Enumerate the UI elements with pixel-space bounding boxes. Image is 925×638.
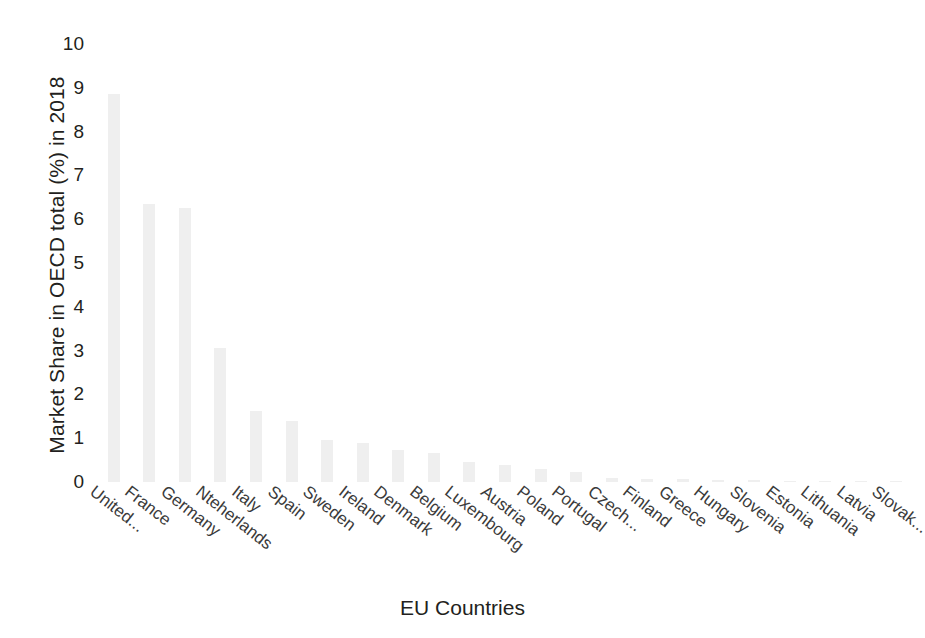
y-tick-label: 4	[73, 296, 84, 318]
bar	[357, 443, 369, 482]
bar	[250, 411, 262, 482]
y-tick-label: 0	[73, 471, 84, 493]
bar	[143, 204, 155, 482]
y-tick-label: 6	[73, 208, 84, 230]
x-tick-label: Spain	[263, 482, 310, 525]
x-axis-title: EU Countries	[0, 596, 925, 620]
bar	[570, 472, 582, 482]
y-tick-label: 1	[73, 427, 84, 449]
chart-figure: Market Share in OECD total (%) in 2018 0…	[0, 0, 925, 638]
y-tick-label: 3	[73, 340, 84, 362]
bar	[428, 453, 440, 482]
y-tick-label: 7	[73, 164, 84, 186]
bar	[535, 469, 547, 482]
y-tick-label: 10	[63, 33, 84, 55]
bar	[214, 348, 226, 482]
y-tick-label: 2	[73, 383, 84, 405]
bar	[392, 450, 404, 482]
bar	[108, 94, 120, 482]
y-axis-tick-labels: 012345678910	[58, 0, 84, 638]
bar	[179, 208, 191, 482]
x-axis-tick-labels: United...FranceGermanyNteherlandsItalySp…	[96, 482, 914, 592]
y-tick-label: 8	[73, 121, 84, 143]
plot-area	[96, 44, 914, 482]
bar	[286, 421, 298, 482]
bar	[321, 440, 333, 482]
y-tick-label: 5	[73, 252, 84, 274]
y-tick-label: 9	[73, 77, 84, 99]
bar	[463, 462, 475, 482]
bar	[499, 465, 511, 482]
